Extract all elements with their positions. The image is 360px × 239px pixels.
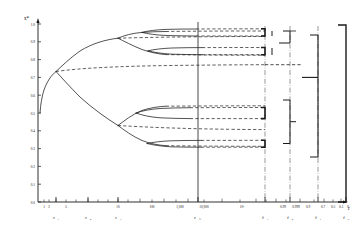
x-tick-label-1: 1 [43, 205, 45, 209]
x-tick-label-0.3: 0.3 [339, 205, 344, 209]
y-tick-label-4: 0.6 [31, 94, 36, 98]
x-tick-label-0.99: 0.99 [280, 205, 286, 209]
y-tick-label-10: 0.0 [31, 201, 36, 205]
bifurcation-svg: 1.0 0.9 0.8 0.7 0.6 0.5 0.4 0.3 0.2 0.1 … [0, 0, 360, 239]
y-tick-label-0: 1.0 [31, 23, 36, 27]
y-tick-label-1: 0.9 [31, 40, 36, 44]
x-tick-label-0.5: 0.5 [331, 205, 336, 209]
x-tick-label-10: 10 [116, 205, 120, 209]
y-tick-label-7: 0.3 [31, 147, 36, 151]
y-tick-label-5: 0.5 [31, 112, 36, 116]
svg-text:∞: ∞ [199, 217, 201, 221]
x-tick-label-100: 100 [149, 205, 154, 209]
x-tick-label-0: 0 [347, 205, 349, 209]
y-tick-label-9: 0.1 [31, 183, 36, 187]
bifurcation-figure: 1.0 0.9 0.8 0.7 0.6 0.5 0.4 0.3 0.2 0.1 … [0, 0, 360, 239]
y-tick-label-2: 0.8 [31, 58, 36, 62]
x-tick-label-5: 5 [65, 205, 67, 209]
x-tick-label-2: 2 [48, 205, 50, 209]
x-tick-label-0.7: 0.7 [321, 205, 326, 209]
y-axis-title: x* [24, 15, 30, 21]
x-tick-label-0.999: 0.999 [292, 205, 300, 209]
x-tick-label-1e6: 10⁶ [240, 205, 245, 209]
y-tick-label-8: 0.2 [31, 165, 36, 169]
y-tick-label-6: 0.4 [31, 129, 36, 133]
y-tick-label-3: 0.7 [31, 76, 36, 80]
x-tick-label-0.9: 0.9 [306, 205, 311, 209]
